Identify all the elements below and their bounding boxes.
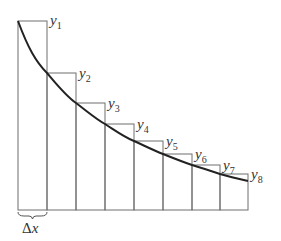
curve (18, 21, 248, 181)
label-y7: y7 (221, 157, 235, 176)
label-y4: y4 (135, 116, 149, 135)
label-y2: y2 (77, 65, 91, 84)
label-y1: y1 (48, 12, 62, 31)
rectangles (18, 21, 248, 210)
label-y6: y6 (193, 146, 207, 165)
rect-3 (76, 103, 105, 210)
label-y3: y3 (106, 95, 120, 114)
rect-2 (47, 73, 76, 210)
delta-x-label: Δx (22, 220, 39, 236)
riemann-diagram: y1 y2 y3 y4 y5 y6 y7 y8 Δx (0, 0, 281, 241)
rect-1 (18, 21, 47, 210)
label-y8: y8 (249, 166, 263, 185)
brace (18, 212, 47, 219)
label-y5: y5 (164, 133, 178, 152)
rect-4 (105, 124, 134, 210)
rect-6 (163, 154, 192, 210)
